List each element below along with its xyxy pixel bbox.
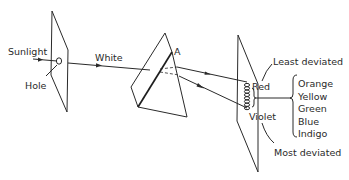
most-deviated-leader: [262, 123, 274, 143]
apex-label: A: [174, 46, 181, 57]
sunlight-label: Sunlight: [8, 46, 47, 57]
spectrum-indigo: Indigo: [298, 128, 328, 139]
least-deviated-label: Least deviated: [273, 56, 343, 67]
hole-icon: [56, 58, 61, 64]
least-deviated-leader: [262, 64, 272, 81]
sunlight-ray: [33, 58, 57, 62]
hole-label: Hole: [25, 80, 47, 91]
spectrum-green: Green: [298, 103, 327, 114]
prism-dispersion-diagram: Sunlight Hole White A: [0, 0, 349, 180]
spectrum-orange: Orange: [298, 78, 333, 89]
violet-label: Violet: [249, 111, 276, 122]
most-deviated-label: Most deviated: [274, 147, 341, 158]
left-screen: [51, 11, 68, 112]
red-label: Red: [252, 81, 270, 92]
white-ray: [68, 63, 150, 70]
spectrum-brace: [290, 75, 297, 137]
spectrum-yellow: Yellow: [297, 91, 327, 102]
white-label: White: [95, 52, 123, 63]
spectrum-blue: Blue: [298, 116, 319, 127]
